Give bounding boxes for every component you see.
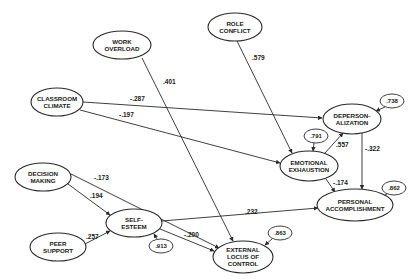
- node-label: MAKING: [30, 177, 55, 184]
- residual-personal-accomplishment: .862: [382, 181, 406, 195]
- node-label: OVERLOAD: [104, 45, 140, 52]
- node-label: SUPPORT: [43, 247, 73, 254]
- residual-emotional-exhaustion: .791: [304, 129, 328, 143]
- path-coefficient: .579: [252, 54, 265, 61]
- path-coefficient: -.287: [130, 95, 145, 102]
- node-decision-making: DECISIONMAKING: [15, 163, 71, 191]
- node-work-overload: WORKOVERLOAD: [93, 31, 151, 59]
- node-external-locus: EXTERNALLOCUS OFCONTROL: [213, 241, 273, 273]
- residual-value: .862: [388, 185, 400, 191]
- path-coefficient: -.200: [184, 231, 199, 238]
- node-depersonalization: DEPERSON-ALIZATION: [323, 104, 381, 134]
- path-coefficient: .401: [163, 78, 176, 85]
- residual-value: .791: [310, 133, 322, 139]
- node-label: ALIZATION: [336, 119, 369, 126]
- node-personal-accomplishment: PERSONALACCOMPLISHMENT: [317, 189, 393, 221]
- node-label: EXHAUSTION: [289, 166, 330, 173]
- node-label: CONTROL: [228, 260, 259, 267]
- node-peer-support: PEERSUPPORT: [30, 233, 86, 261]
- path-coefficient: -.173: [94, 174, 109, 181]
- node-self-esteem: SELF-ESTEEM: [106, 209, 162, 237]
- path-coefficient: -.197: [119, 111, 134, 118]
- residual-value: .863: [274, 230, 286, 236]
- path-coefficient: .257: [86, 233, 99, 240]
- node-label: ESTEEM: [121, 223, 146, 230]
- node-label: ACCOMPLISHMENT: [325, 205, 384, 212]
- node-label: CLIMATE: [43, 102, 70, 109]
- path-arrow-classroom-climate-to-emotional-exhaustion: [80, 110, 280, 163]
- residual-arrow: [265, 239, 272, 245]
- path-arrow-decision-making-to-self-esteem: [68, 184, 110, 215]
- path-coefficient: .194: [90, 192, 103, 199]
- node-role-conflict: ROLECONFLICT: [208, 13, 262, 41]
- residual-value: .913: [155, 243, 167, 249]
- path-coefficient: -.174: [333, 179, 348, 186]
- residual-arrow: [154, 234, 157, 239]
- path-arrow-self-esteem-to-personal-accomplishment: [162, 208, 318, 221]
- residual-arrow: [376, 107, 385, 111]
- path-coefficient: -.322: [365, 145, 380, 152]
- node-emotional-exhaustion: EMOTIONALEXHAUSTION: [280, 151, 338, 181]
- residual-value: .738: [386, 98, 398, 104]
- residual-external-locus: .863: [268, 226, 292, 240]
- residual-arrow: [313, 143, 314, 151]
- residual-depersonalization: .738: [380, 94, 404, 108]
- node-label: CONFLICT: [219, 27, 250, 34]
- path-diagram: .738.791.862.863.913 WORKOVERLOADROLECON…: [0, 0, 419, 279]
- node-classroom-climate: CLASSROOMCLIMATE: [31, 88, 83, 116]
- path-coefficient: .557: [336, 141, 349, 148]
- residual-self-esteem: .913: [149, 239, 173, 253]
- path-coefficient: .232: [245, 208, 258, 215]
